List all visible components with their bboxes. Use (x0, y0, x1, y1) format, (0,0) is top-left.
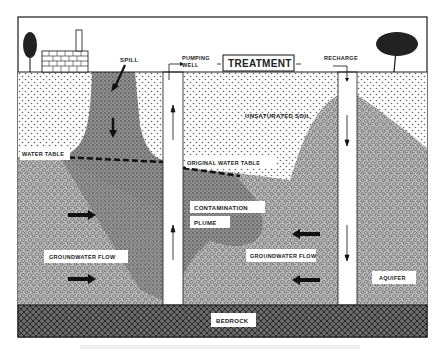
spill-label: SPILL (120, 57, 139, 63)
groundwater-flow-right-label: GROUNDWATER FLOW (250, 253, 317, 259)
bedrock-label: BEDROCK (216, 318, 249, 324)
unsaturated-soil-label: UNSATURATED SOIL (245, 113, 310, 119)
pumping-well-label-2: WELL (182, 62, 199, 68)
original-water-table-label: ORIGINAL WATER TABLE (187, 160, 260, 166)
aquifer-label: AQUIFER (379, 275, 406, 281)
pumping-well-label-1: PUMPING (182, 55, 210, 61)
water-table-label: WATER TABLE (22, 151, 64, 157)
plume-label: PLUME (194, 220, 217, 226)
recharge-label: RECHARGE (324, 55, 358, 61)
contamination-label: CONTAMINATION (194, 205, 248, 211)
groundwater-diagram: SPILL PUMPING WELL TREATMENT RECHARGE UN… (0, 0, 442, 361)
treatment-label: TREATMENT (228, 58, 292, 69)
groundwater-flow-left-label: GROUNDWATER FLOW (49, 254, 116, 260)
caption-placeholder (80, 345, 360, 349)
recharge-well (338, 72, 357, 305)
